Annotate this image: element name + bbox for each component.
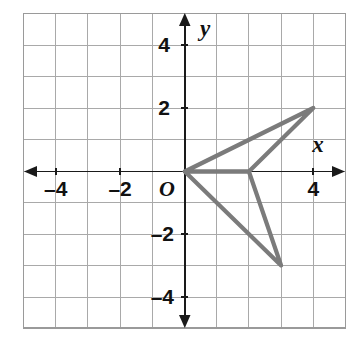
lower-triangle-path: [185, 172, 281, 266]
y-tick-label-4: 4: [158, 33, 170, 56]
x-axis-arrow-right: [332, 166, 345, 177]
x-axis-label: x: [311, 132, 324, 157]
y-axis-arrow-down: [179, 315, 191, 328]
y-axis-arrow-up: [179, 13, 191, 26]
y-axis-label: y: [197, 16, 211, 41]
coordinate-plane-figure: –4 –2 4 4 2 –2 –4 O x y: [0, 0, 361, 347]
origin-label: O: [159, 176, 175, 201]
graph-container: –4 –2 4 4 2 –2 –4 O x y: [0, 0, 361, 347]
y-tick-label-neg4: –4: [151, 285, 175, 308]
x-axis-arrow-left: [24, 166, 37, 177]
x-tick-label-4: 4: [307, 177, 319, 200]
y-tick-label-neg2: –2: [151, 222, 174, 245]
x-tick-label-neg4: –4: [44, 177, 68, 200]
x-tick-label-neg2: –2: [108, 177, 131, 200]
y-tick-label-2: 2: [158, 96, 170, 119]
